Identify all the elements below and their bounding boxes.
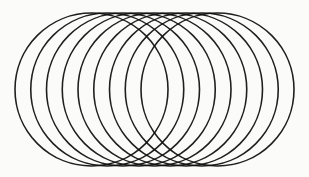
figure-container <box>0 0 309 177</box>
overlapping-circles-diagram <box>0 0 309 177</box>
